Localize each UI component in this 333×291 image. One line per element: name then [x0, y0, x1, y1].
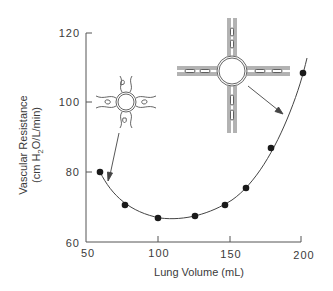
data-point	[300, 70, 307, 77]
xtick-label: 150	[220, 248, 241, 260]
stretched-vessel-illustration	[177, 18, 290, 133]
ytick-label: 120	[59, 27, 80, 39]
arrow-icon	[108, 133, 120, 181]
data-point	[222, 202, 229, 209]
data-point	[122, 202, 129, 209]
data-point	[268, 145, 275, 152]
xtick-label: 50	[81, 247, 95, 259]
ytick-label: 80	[66, 166, 80, 178]
xtick-label: 200	[293, 249, 314, 261]
ytick-label: 100	[59, 96, 80, 108]
xtick-label: 100	[148, 247, 169, 259]
x-axis-title: Lung Volume (mL)	[154, 266, 244, 278]
data-point	[97, 169, 104, 176]
compressed-vessel-illustration	[96, 76, 156, 128]
data-point	[192, 213, 199, 220]
data-point	[243, 185, 250, 192]
y-axis-title-line2: (cm H2O/L/min)	[30, 107, 45, 183]
data-point	[155, 215, 162, 222]
ytick-label: 60	[66, 237, 80, 249]
lung-volume-resistance-chart: 60 80 100 120 50 100 150 200 Lung Volume…	[0, 0, 333, 291]
y-axis-title-line1: Vascular Resistance	[17, 95, 29, 194]
arrow-icon	[248, 86, 283, 114]
